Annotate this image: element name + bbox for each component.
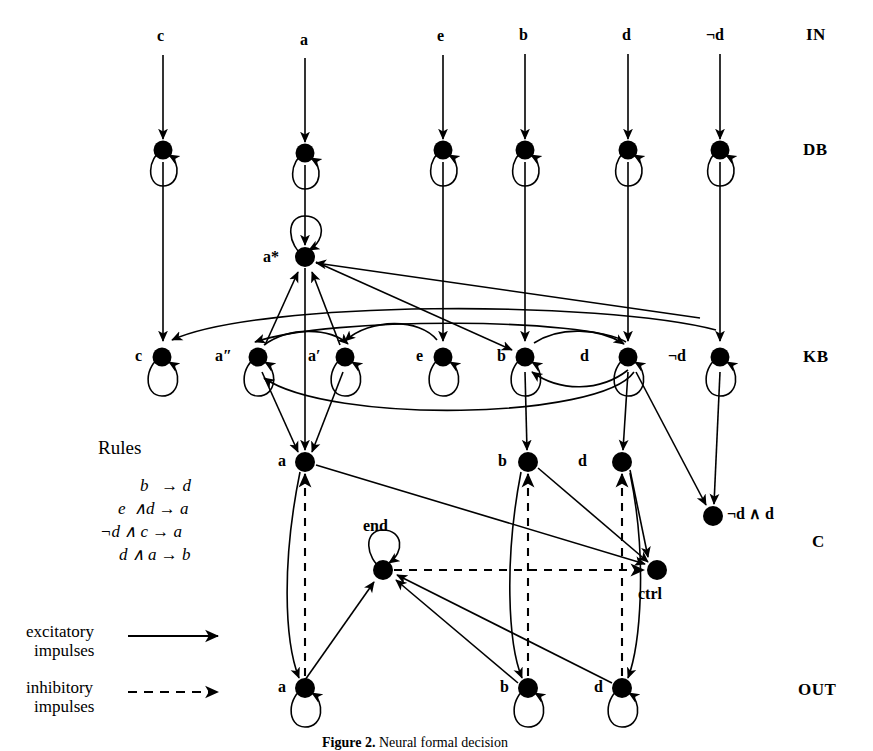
- edge-kb-a1-c-a: [312, 372, 343, 452]
- rule-item-2: e ∧d → a: [118, 500, 189, 517]
- arc-kb-d-to-kb-a2-lower: [264, 372, 634, 410]
- edge-group-in-to-db: [163, 54, 720, 142]
- node-kb-c[interactable]: [153, 348, 172, 367]
- kb-label-a2: a″: [215, 348, 232, 364]
- edge-c-b-out-b: [510, 472, 522, 678]
- figure-canvas: c a e b d ¬d a* c a″ a′ e b d ¬d a b d ¬…: [0, 0, 873, 751]
- out-label-d: d: [594, 679, 603, 695]
- node-group: [153, 141, 730, 699]
- row-label-kb: KB: [803, 348, 829, 365]
- node-c-ctrl[interactable]: [647, 560, 667, 580]
- figure-caption-rest: Neural formal decision: [379, 735, 508, 750]
- node-c-end[interactable]: [373, 560, 393, 580]
- rule-item-3: ¬d ∧ c → a: [100, 523, 182, 540]
- in-label-e: e: [437, 28, 444, 44]
- node-out-b[interactable]: [518, 678, 538, 698]
- kb-label-nd: ¬d: [668, 348, 686, 364]
- c-label-end: end: [363, 518, 388, 534]
- node-kb-d[interactable]: [619, 348, 638, 367]
- in-label-b: b: [519, 27, 528, 43]
- arc-kb-b-to-kb-d: [534, 331, 624, 344]
- node-c-b[interactable]: [518, 452, 538, 472]
- rule-item-1: b → d: [140, 477, 191, 494]
- node-db-e[interactable]: [434, 141, 453, 160]
- node-db-c[interactable]: [154, 141, 173, 160]
- node-kb-a2[interactable]: [249, 348, 268, 367]
- edge-group-kb-to-c: [262, 372, 720, 505]
- edge-group-c-to-out: [287, 472, 640, 678]
- edge-kb-d-c-d: [623, 372, 628, 450]
- edge-kb-a2-astar: [265, 272, 298, 345]
- row-label-c: C: [812, 533, 825, 550]
- kb-label-b: b: [497, 348, 506, 364]
- edge-kb-d-c-ndd: [636, 372, 706, 505]
- edge-kb-a2-c-a: [262, 372, 298, 452]
- rule-item-4: d ∧ a → b: [119, 546, 191, 563]
- legend-arrows: [128, 636, 218, 692]
- arc-kb-d-to-kb-b: [532, 370, 628, 387]
- edge-kb-nd-c-ndd: [714, 372, 720, 504]
- node-out-a[interactable]: [295, 678, 315, 698]
- node-out-d[interactable]: [612, 678, 632, 698]
- edge-group-c-to-ctrl-and-end: [305, 465, 648, 683]
- figure-caption-bold: Figure 2.: [322, 735, 375, 750]
- node-astar[interactable]: [295, 247, 315, 267]
- node-db-b[interactable]: [516, 141, 535, 160]
- in-label-nd: ¬d: [706, 27, 724, 43]
- edge-astar-kb-b: [316, 262, 512, 350]
- node-kb-nd[interactable]: [711, 348, 730, 367]
- node-db-d[interactable]: [619, 141, 638, 160]
- c-label-ndd: ¬d ∧ d: [727, 506, 774, 522]
- c-label-b: b: [498, 453, 507, 469]
- node-db-a[interactable]: [296, 144, 315, 163]
- row-label-db: DB: [803, 141, 828, 158]
- node-kb-b[interactable]: [516, 348, 535, 367]
- node-c-a[interactable]: [295, 452, 315, 472]
- astar-label: a*: [263, 249, 279, 265]
- c-label-ctrl: ctrl: [638, 586, 662, 602]
- in-label-d: d: [622, 27, 631, 43]
- edge-out-a-end: [305, 582, 374, 680]
- kb-label-c: c: [135, 348, 142, 364]
- neural-network-diagram: [0, 0, 873, 751]
- row-label-in: IN: [806, 26, 826, 43]
- node-kb-e[interactable]: [434, 348, 453, 367]
- edge-group-db-to-kb: [163, 162, 720, 341]
- figure-caption: Figure 2. Neural formal decision: [322, 736, 508, 750]
- legend-inhibitory-line2: impulses: [34, 697, 94, 717]
- arc-kb-d-to-kb-a2: [255, 323, 626, 342]
- rules-title: Rules: [98, 438, 141, 457]
- edge-out-b-end: [396, 580, 518, 683]
- row-label-out: OUT: [798, 681, 836, 698]
- out-label-a: a: [278, 679, 286, 695]
- edge-c-a-ctrl: [316, 465, 645, 564]
- legend-excitatory-line2: impulses: [34, 641, 94, 661]
- legend-excitatory-line1: excitatory: [26, 622, 94, 642]
- c-label-a: a: [278, 453, 286, 469]
- legend-inhibitory-line1: inhibitory: [26, 678, 93, 698]
- out-label-b: b: [500, 679, 509, 695]
- edge-c-d-out-d: [628, 473, 641, 678]
- node-kb-a1[interactable]: [336, 348, 355, 367]
- arc-kb-nd-to-kb-c: [172, 309, 716, 340]
- kb-label-a1: a′: [308, 348, 321, 364]
- edge-kb-a1-astar: [312, 272, 340, 345]
- node-c-ndd[interactable]: [703, 506, 723, 526]
- edge-out-d-end: [397, 575, 612, 683]
- edge-group-out-selfloops: [291, 688, 638, 727]
- c-label-d: d: [578, 453, 587, 469]
- node-c-d[interactable]: [612, 452, 632, 472]
- edge-kb-b-c-b: [525, 372, 527, 450]
- kb-label-e: e: [416, 348, 423, 364]
- edge-c-a-out-a: [287, 472, 300, 678]
- in-label-c: c: [157, 28, 164, 44]
- kb-label-d: d: [580, 348, 589, 364]
- in-label-a: a: [300, 32, 308, 48]
- node-db-nd[interactable]: [711, 141, 730, 160]
